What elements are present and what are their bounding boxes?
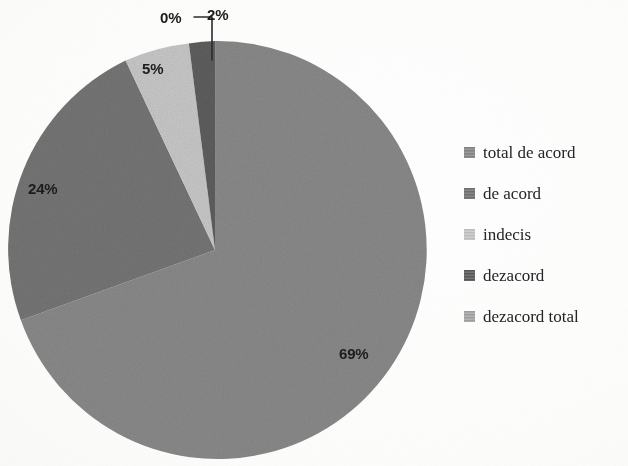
legend-label: dezacord total <box>483 308 579 325</box>
legend-label: indecis <box>483 226 531 243</box>
legend-label: de acord <box>483 185 541 202</box>
legend-swatch-icon <box>464 188 475 199</box>
chart-legend: total de acord de acord indecis dezacord… <box>464 132 628 337</box>
legend-swatch-icon <box>464 229 475 240</box>
legend-item-total-de-acord[interactable]: total de acord <box>464 132 628 173</box>
legend-item-de-acord[interactable]: de acord <box>464 173 628 214</box>
legend-swatch-icon <box>464 270 475 281</box>
pie-label-de-acord: 24% <box>28 180 57 197</box>
pie-chart-graphic <box>0 0 450 466</box>
legend-item-dezacord-total[interactable]: dezacord total <box>464 296 628 337</box>
legend-label: dezacord <box>483 267 544 284</box>
legend-item-dezacord[interactable]: dezacord <box>464 255 628 296</box>
pie-label-total-de-acord: 69% <box>339 345 368 362</box>
pie-label-dezacord: 2% <box>207 6 228 23</box>
legend-item-indecis[interactable]: indecis <box>464 214 628 255</box>
legend-swatch-icon <box>464 147 475 158</box>
legend-swatch-icon <box>464 311 475 322</box>
pie-label-indecis: 5% <box>142 60 163 77</box>
legend-label: total de acord <box>483 144 576 161</box>
pie-label-dezacord-total: 0% <box>160 9 181 26</box>
pie-chart-figure: 69% 24% 5% 2% 0% total de acord de acord… <box>0 0 628 466</box>
